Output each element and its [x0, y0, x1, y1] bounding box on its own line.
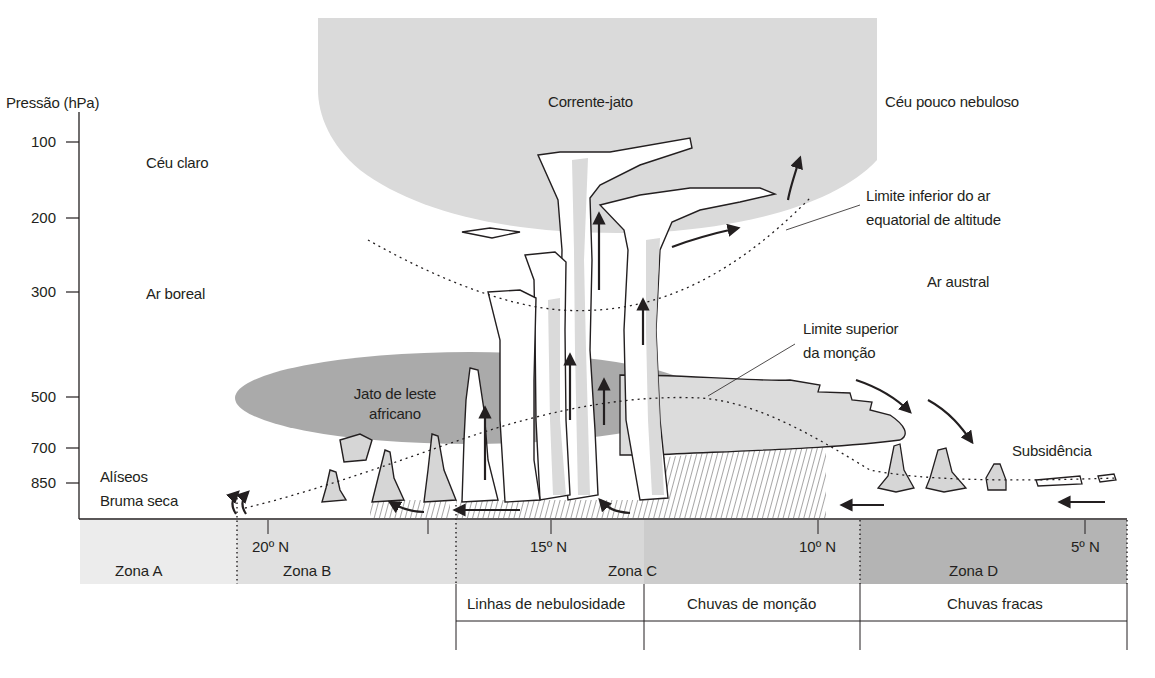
label-subsidence: Subsidência — [1012, 441, 1092, 460]
leader-line-lower-limit — [786, 205, 860, 230]
label-dry-haze: Bruma seca — [100, 491, 178, 510]
zone-d-label: Zona D — [949, 562, 998, 579]
rain-band-light-rains: Chuvas fracas — [947, 595, 1043, 612]
rain-band-table — [456, 584, 1127, 650]
zone-a-label: Zona A — [115, 562, 163, 579]
label-boreal-air: Ar boreal — [146, 284, 205, 303]
latitude-5n: 5º N — [1071, 538, 1100, 555]
annotation-upper-limit-2: da monção — [803, 343, 875, 362]
y-tick-200: 200 — [16, 209, 56, 226]
annotation-lower-limit-2: equatorial de altitude — [866, 210, 1001, 229]
y-tick-850: 850 — [16, 474, 56, 491]
label-jet-stream: Corrente-jato — [548, 92, 633, 111]
latitude-20n: 20º N — [252, 538, 289, 555]
rain-band-monsoon-rains: Chuvas de monção — [687, 595, 816, 612]
latitude-10n: 10º N — [799, 538, 836, 555]
label-african-easterly-jet-2: africano — [340, 404, 450, 423]
rain-hatch-small — [370, 500, 450, 518]
zone-c-label: Zona C — [608, 562, 657, 579]
y-tick-500: 500 — [16, 388, 56, 405]
annotation-upper-limit-1: Limite superior — [803, 319, 898, 338]
y-axis-title: Pressão (hPa) — [6, 93, 99, 112]
label-clear-sky: Céu claro — [146, 153, 208, 172]
label-few-clouds: Céu pouco nebuloso — [885, 92, 1019, 111]
y-tick-100: 100 — [16, 133, 56, 150]
annotation-lower-limit-1: Limite inferior do ar — [866, 186, 990, 205]
y-axis-ticks — [66, 142, 79, 483]
y-tick-300: 300 — [16, 283, 56, 300]
y-tick-700: 700 — [16, 439, 56, 456]
label-trade-winds: Alíseos — [100, 467, 148, 486]
monsoon-diagram: Pressão (hPa) 100 200 300 500 700 850 Cé… — [0, 0, 1155, 678]
latitude-15n: 15º N — [530, 538, 567, 555]
jet-stream-region — [318, 18, 877, 233]
label-austral-air: Ar austral — [927, 272, 989, 291]
rain-band-cloud-lines: Linhas de nebulosidade — [467, 595, 625, 612]
zone-b-label: Zona B — [283, 562, 331, 579]
label-african-easterly-jet-1: Jato de leste — [340, 384, 450, 403]
